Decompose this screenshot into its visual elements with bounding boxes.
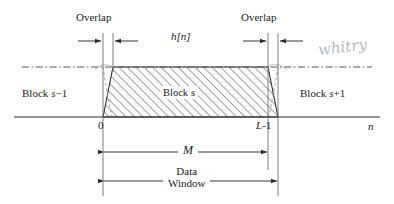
tick-label-zero: 0: [98, 120, 104, 132]
m-dimension-label: M: [178, 144, 198, 157]
overlap-left-label: Overlap: [76, 12, 111, 24]
block-next-label: Blocks+1: [300, 88, 345, 100]
tick-label-end: L-1: [256, 120, 271, 132]
data-window-line2: Window: [168, 177, 205, 189]
tick-end-suffix: -1: [262, 119, 271, 131]
data-window-line1: Data: [176, 165, 197, 177]
block-prev-label: Blocks−1: [22, 88, 67, 100]
block-next-word: Block: [300, 87, 326, 99]
block-current-word: Block: [163, 87, 188, 98]
block-current-symbol: s: [191, 87, 195, 98]
figure-canvas: Overlap Overlap h[n] whitry Blocks−1 Blo…: [0, 0, 394, 204]
block-prev-suffix: −1: [56, 87, 68, 99]
data-window-label: Data Window: [163, 166, 210, 189]
block-prev-word: Block: [22, 87, 48, 99]
block-next-suffix: +1: [334, 87, 346, 99]
axis-label-n: n: [368, 121, 374, 133]
overlap-right-label: Overlap: [241, 12, 276, 24]
block-current-label: Blocks: [160, 86, 198, 99]
impulse-response-label: h[n]: [171, 31, 191, 43]
